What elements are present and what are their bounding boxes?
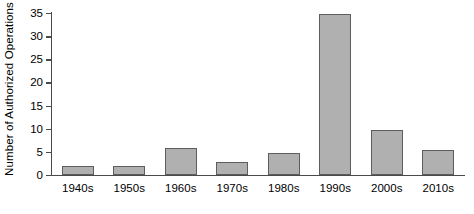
y-tick-label: 10 (30, 123, 43, 135)
y-tick-label: 20 (30, 76, 43, 88)
bar (216, 162, 248, 175)
bar (165, 148, 197, 175)
x-tick-label: 1990s (320, 182, 351, 194)
y-tick-mark (46, 175, 52, 176)
x-tick-label: 1970s (217, 182, 248, 194)
x-tick-label: 1960s (165, 182, 196, 194)
bar (62, 166, 94, 175)
x-tick-label: 1940s (62, 182, 93, 194)
y-axis-title: Number of Authorized Operations (0, 0, 18, 178)
bar-chart: Number of Authorized Operations 05101520… (0, 0, 474, 214)
x-tick-label: 1950s (114, 182, 145, 194)
x-axis-line (51, 175, 465, 176)
bar (319, 14, 351, 175)
bar (113, 166, 145, 175)
x-tick-label: 2010s (423, 182, 454, 194)
plot-area: 05101520253035 (52, 13, 464, 175)
y-tick-label: 15 (30, 100, 43, 112)
y-tick-label: 35 (30, 7, 43, 19)
x-tick-label: 1980s (268, 182, 299, 194)
y-tick-label: 5 (37, 146, 43, 158)
y-tick-label: 25 (30, 53, 43, 65)
bar (422, 150, 454, 175)
bars-layer (52, 13, 464, 175)
y-axis-title-text: Number of Authorized Operations (3, 2, 15, 176)
y-tick-label: 30 (30, 30, 43, 42)
bar (268, 153, 300, 175)
x-tick-label: 2000s (371, 182, 402, 194)
y-tick-label: 0 (37, 169, 43, 181)
bar (371, 130, 403, 175)
